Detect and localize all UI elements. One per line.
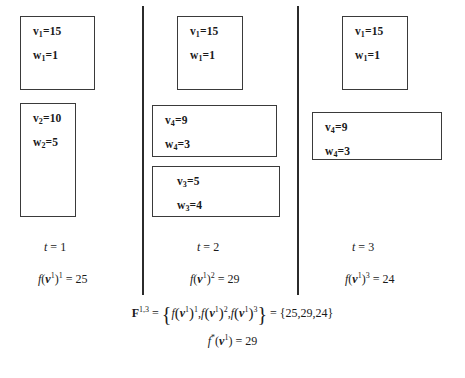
item-box-c2-i1: v1=15 w1=1	[177, 16, 243, 90]
objective-label-c3: f(v1)3 = 24	[345, 271, 394, 287]
item-box-c3-i2-lines: v4=9 w4=3	[325, 122, 350, 170]
item-weight-line: w1=1	[33, 50, 61, 63]
item-box-c2-i1-lines: v1=15 w1=1	[190, 26, 218, 74]
item-box-c3-i1: v1=15 w1=1	[342, 16, 408, 90]
left-brace-icon: {	[162, 303, 172, 326]
item-box-c1-i2: v2=10 w2=5	[20, 103, 76, 217]
summary-set-superscript: 1,3	[139, 305, 149, 314]
summary-set-symbol: F	[132, 306, 139, 320]
item-box-c2-i3: v3=5 w3=4	[152, 166, 280, 217]
right-brace-icon: }	[257, 303, 267, 326]
item-value-line: v1=15	[355, 26, 383, 39]
item-value-line: v4=9	[325, 122, 350, 135]
time-label-c1: t = 1	[44, 240, 66, 255]
item-weight-line: w4=3	[325, 146, 350, 159]
column-divider-2	[297, 6, 299, 295]
item-box-c2-i2: v4=9 w4=3	[152, 105, 277, 157]
summary-result-set: {25,29,24}	[280, 306, 334, 320]
item-weight-line: w3=4	[177, 200, 202, 213]
item-value-line: v2=10	[33, 113, 61, 126]
item-box-c1-i1: v1=15 w1=1	[20, 16, 95, 90]
column-divider-1	[142, 6, 144, 295]
time-label-c3: t = 3	[352, 240, 374, 255]
objective-label-c2: f(v1)2 = 29	[190, 271, 239, 287]
best-star-icon: *	[211, 333, 215, 342]
summary-best-value: 29	[245, 334, 257, 348]
knapsack-iteration-figure: v1=15 w1=1 v2=10 w2=5 t = 1 f(v1)1 = 25 …	[0, 0, 465, 378]
summary-equals-2: =	[270, 306, 277, 320]
summary-best-equation: f*(v1) = 29	[0, 333, 465, 349]
item-box-c1-i2-lines: v2=10 w2=5	[33, 113, 61, 161]
item-box-c2-i3-lines: v3=5 w3=4	[177, 176, 202, 224]
objective-label-c1: f(v1)1 = 25	[38, 271, 87, 287]
item-box-c1-i1-lines: v1=15 w1=1	[33, 26, 61, 74]
item-weight-line: w2=5	[33, 137, 61, 150]
item-value-line: v1=15	[33, 26, 61, 39]
item-box-c2-i2-lines: v4=9 w4=3	[165, 115, 190, 163]
item-value-line: v4=9	[165, 115, 190, 128]
item-value-line: v3=5	[177, 176, 202, 189]
item-weight-line: w4=3	[165, 139, 190, 152]
item-weight-line: w1=1	[355, 50, 383, 63]
item-weight-line: w1=1	[190, 50, 218, 63]
item-value-line: v1=15	[190, 26, 218, 39]
time-label-c2: t = 2	[197, 240, 219, 255]
item-box-c3-i2: v4=9 w4=3	[312, 112, 442, 160]
summary-set-equation: F1,3 = {f(v1)1,f(v1)2,f(v1)3} = {25,29,2…	[0, 303, 465, 326]
summary-equals-1: =	[152, 306, 159, 320]
item-box-c3-i1-lines: v1=15 w1=1	[355, 26, 383, 74]
summary-equals-3: =	[235, 334, 242, 348]
